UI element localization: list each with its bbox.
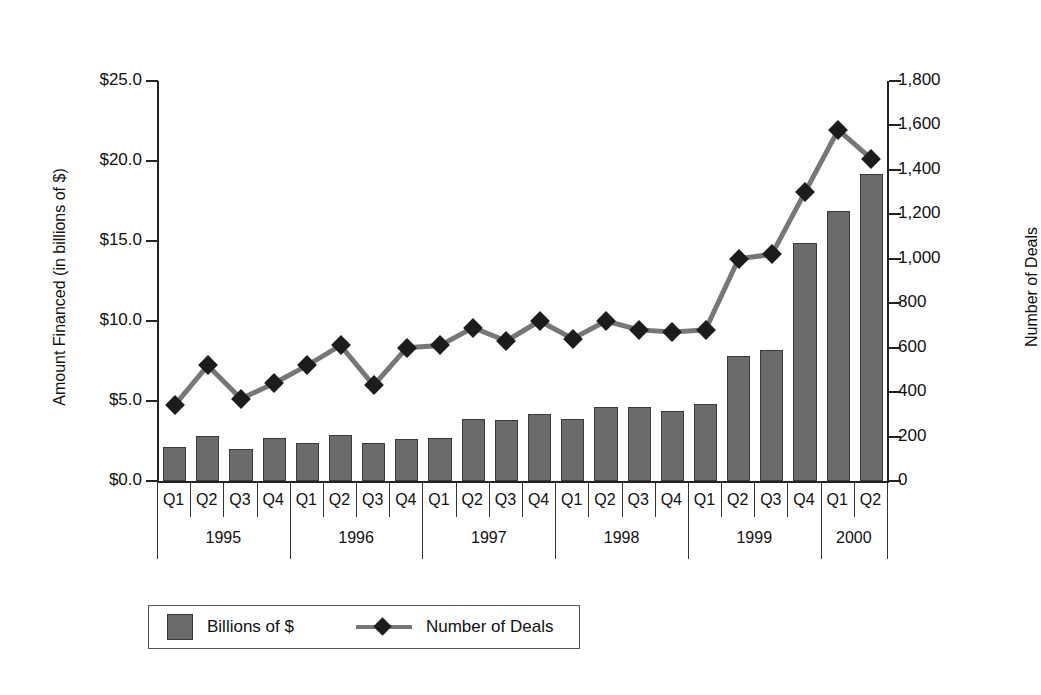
y-axis-left-tick-label: $0.0 xyxy=(62,471,142,488)
y-axis-right-tick-label: 1,400 xyxy=(898,160,988,177)
y-axis-right-title: Number of Deals xyxy=(1023,77,1041,497)
x-axis-quarter-label: Q1 xyxy=(290,483,323,517)
y-axis-right-ticks: 02004006008001,0001,2001,4001,6001,800 xyxy=(898,0,988,695)
x-axis-quarter-label: Q2 xyxy=(854,483,887,517)
x-axis-quarter-separator xyxy=(356,483,357,517)
y-axis-left-tick-mark xyxy=(146,400,158,402)
x-axis-quarter-label: Q2 xyxy=(721,483,754,517)
x-axis-quarter-separator xyxy=(754,483,755,517)
legend-item-line: Number of Deals xyxy=(356,617,554,637)
x-axis-quarter-label: Q1 xyxy=(688,483,721,517)
y-axis-right-tick-mark xyxy=(889,302,901,304)
y-axis-right-tick-label: 1,200 xyxy=(898,204,988,221)
y-axis-right-tick-label: 400 xyxy=(898,382,988,399)
x-axis-quarter-separator xyxy=(323,483,324,517)
x-axis-quarter-separator xyxy=(655,483,656,517)
x-axis-quarter-separator xyxy=(854,483,855,517)
x-axis-quarter-label: Q2 xyxy=(456,483,489,517)
legend-label-line: Number of Deals xyxy=(426,617,554,637)
x-axis-year-separator xyxy=(887,483,888,559)
y-axis-right-tick-mark xyxy=(889,80,901,82)
y-axis-right-tick-mark xyxy=(889,391,901,393)
x-axis-quarter-label: Q4 xyxy=(257,483,290,517)
x-axis-quarter-label: Q3 xyxy=(223,483,256,517)
line-series-layer xyxy=(158,81,888,481)
y-axis-right-tick-mark xyxy=(889,258,901,260)
y-axis-left-tick-mark xyxy=(146,80,158,82)
y-axis-right-tick-mark xyxy=(889,480,901,482)
y-axis-right-tick-mark xyxy=(889,169,901,171)
y-axis-right-tick-mark xyxy=(889,124,901,126)
legend-square-swatch-icon xyxy=(167,614,193,640)
y-axis-left-tick-label: $20.0 xyxy=(62,151,142,168)
x-axis-year-label: 1997 xyxy=(422,525,555,551)
x-axis-quarter-separator xyxy=(257,483,258,517)
y-axis-right-tick-label: 200 xyxy=(898,427,988,444)
y-axis-left-tick-mark xyxy=(146,480,158,482)
x-axis-quarter-separator xyxy=(721,483,722,517)
y-axis-left-tick-mark xyxy=(146,240,158,242)
y-axis-right-tick-label: 0 xyxy=(898,471,988,488)
x-axis-year-label: 2000 xyxy=(821,525,887,551)
y-axis-left-tick-label: $5.0 xyxy=(62,391,142,408)
legend-item-bars: Billions of $ xyxy=(167,614,294,640)
y-axis-right-tick-mark xyxy=(889,347,901,349)
x-axis-quarter-label: Q4 xyxy=(655,483,688,517)
x-axis-quarter-label: Q1 xyxy=(422,483,455,517)
x-axis-quarter-label: Q3 xyxy=(754,483,787,517)
y-axis-right-tick-label: 1,600 xyxy=(898,115,988,132)
deals-line-path xyxy=(175,130,872,406)
x-axis-quarter-separator xyxy=(588,483,589,517)
y-axis-right-tick-label: 600 xyxy=(898,338,988,355)
x-axis-quarter-separator xyxy=(190,483,191,517)
x-axis-quarter-label: Q2 xyxy=(190,483,223,517)
chart-legend: Billions of $ Number of Deals xyxy=(148,605,580,649)
y-axis-left-tick-label: $15.0 xyxy=(62,231,142,248)
y-axis-left-tick-label: $10.0 xyxy=(62,311,142,328)
x-axis-quarter-label: Q1 xyxy=(157,483,190,517)
x-axis-quarter-separator xyxy=(223,483,224,517)
x-axis-quarter-separator xyxy=(787,483,788,517)
x-axis-quarter-label: Q4 xyxy=(522,483,555,517)
x-axis-year-label: 1998 xyxy=(555,525,688,551)
y-axis-left-ticks: $0.0$5.0$10.0$15.0$20.0$25.0 xyxy=(62,0,142,695)
x-axis-quarter-separator xyxy=(522,483,523,517)
x-axis-quarter-label: Q2 xyxy=(588,483,621,517)
y-axis-right-tick-label: 800 xyxy=(898,293,988,310)
y-axis-right-tick-mark xyxy=(889,436,901,438)
x-axis-year-label: 1999 xyxy=(688,525,821,551)
x-axis-quarter-label: Q4 xyxy=(787,483,820,517)
x-axis-quarter-separator xyxy=(622,483,623,517)
x-axis-quarter-separator xyxy=(389,483,390,517)
x-axis-year-label: 1996 xyxy=(290,525,423,551)
category-axis: Q1Q2Q3Q4Q1Q2Q3Q4Q1Q2Q3Q4Q1Q2Q3Q4Q1Q2Q3Q4… xyxy=(157,483,889,563)
y-axis-left-tick-mark xyxy=(146,160,158,162)
x-axis-quarter-separator xyxy=(489,483,490,517)
x-axis-quarter-label: Q3 xyxy=(356,483,389,517)
x-axis-quarter-label: Q4 xyxy=(389,483,422,517)
x-axis-quarter-label: Q3 xyxy=(489,483,522,517)
y-axis-left-tick-mark xyxy=(146,320,158,322)
y-axis-left-tick-label: $25.0 xyxy=(62,71,142,88)
y-axis-right-tick-mark xyxy=(889,213,901,215)
x-axis-quarter-separator xyxy=(456,483,457,517)
legend-label-bars: Billions of $ xyxy=(207,617,294,637)
legend-line-diamond-icon xyxy=(356,618,412,636)
plot-area xyxy=(158,81,888,481)
y-axis-right-tick-label: 1,000 xyxy=(898,249,988,266)
x-axis-year-label: 1995 xyxy=(157,525,290,551)
x-axis-quarter-label: Q1 xyxy=(821,483,854,517)
x-axis-quarter-label: Q2 xyxy=(323,483,356,517)
y-axis-right-tick-label: 1,800 xyxy=(898,71,988,88)
x-axis-quarter-label: Q1 xyxy=(555,483,588,517)
x-axis-quarter-label: Q3 xyxy=(622,483,655,517)
